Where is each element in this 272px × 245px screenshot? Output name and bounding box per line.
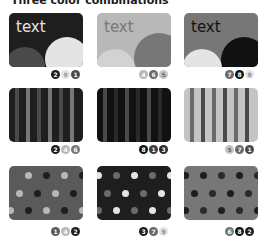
color-badges: 2 4 6	[51, 145, 80, 154]
color-badge: 5	[159, 70, 168, 79]
color-badges: 7 8 9	[225, 70, 254, 79]
color-badge: 9	[61, 70, 70, 79]
color-badge: 9	[159, 227, 168, 236]
color-badge: 1	[149, 145, 158, 154]
circle-shape	[45, 37, 83, 67]
color-badge: 2	[51, 70, 60, 79]
color-badge: 7	[149, 227, 158, 236]
color-badges: 3 7 9	[139, 227, 168, 236]
combo-tile-1: text	[9, 13, 83, 67]
page-title: Three color combinations	[11, 0, 169, 7]
color-badges: 6 8 2	[225, 227, 254, 236]
color-badge: 8	[235, 227, 244, 236]
color-badges: 8 1 3	[139, 145, 168, 154]
color-badge: 9	[245, 70, 254, 79]
color-badge: 7	[235, 145, 244, 154]
circle-shape	[9, 47, 45, 67]
color-badge: 5	[225, 145, 234, 154]
color-badge: 1	[51, 227, 60, 236]
color-badge: 8	[235, 70, 244, 79]
sample-text: text	[191, 18, 221, 36]
sample-text: text	[104, 18, 134, 36]
combo-tile-8	[97, 166, 171, 220]
color-badge: 2	[51, 145, 60, 154]
color-badge: 2	[71, 227, 80, 236]
color-badge: 3	[139, 227, 148, 236]
color-badge: 1	[245, 145, 254, 154]
color-badges: 4 6 5	[139, 70, 168, 79]
color-badge: 4	[139, 70, 148, 79]
color-badges: 2 9 1	[51, 70, 80, 79]
combo-tile-9	[184, 166, 258, 220]
combo-tile-4	[9, 88, 83, 142]
circle-shape	[134, 33, 171, 67]
color-badge: 7	[225, 70, 234, 79]
color-badge: 2	[245, 227, 254, 236]
color-badges: 5 7 1	[225, 145, 254, 154]
combo-tile-6	[184, 88, 258, 142]
color-badges: 1 4 2	[51, 227, 80, 236]
sample-text: text	[16, 18, 46, 36]
combo-tile-2: text	[97, 13, 171, 67]
circle-shape	[221, 37, 258, 67]
color-badge: 6	[149, 70, 158, 79]
color-badge: 6	[225, 227, 234, 236]
combo-tile-7	[9, 166, 83, 220]
color-badge: 1	[71, 70, 80, 79]
circle-shape	[184, 49, 222, 67]
color-badge: 6	[71, 145, 80, 154]
color-badge: 4	[61, 145, 70, 154]
circle-shape	[97, 49, 135, 67]
combo-tile-5	[97, 88, 171, 142]
color-badge: 4	[61, 227, 70, 236]
color-badge: 3	[159, 145, 168, 154]
color-badge: 8	[139, 145, 148, 154]
combo-tile-3: text	[184, 13, 258, 67]
